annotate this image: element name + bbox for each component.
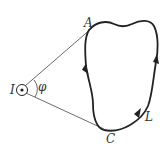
label-phi: φ xyxy=(38,80,47,94)
ampere-loop-diagram: I φ A C L xyxy=(0,0,168,151)
label-a: A xyxy=(83,16,93,30)
arrow-up-right-icon xyxy=(153,54,159,64)
current-symbol-icon xyxy=(17,85,28,96)
line-to-a xyxy=(25,28,92,86)
label-i: I xyxy=(9,83,15,97)
label-l: L xyxy=(144,110,153,124)
arrow-down-left-icon xyxy=(82,64,90,75)
angle-arc xyxy=(34,80,37,97)
label-c: C xyxy=(106,132,115,146)
